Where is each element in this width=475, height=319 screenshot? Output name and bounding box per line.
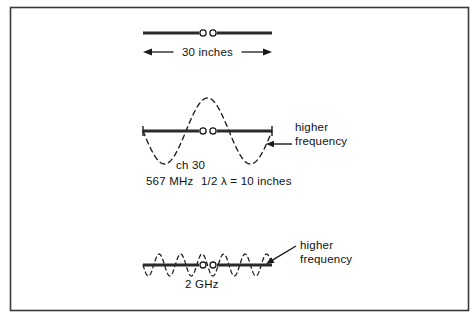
higher-frequency-callout: higher frequency	[266, 121, 347, 147]
feed-point-left-icon	[200, 128, 206, 134]
callout-label-line2: frequency	[295, 135, 347, 147]
dimension-label-30-inches: 30 inches	[182, 46, 233, 58]
antenna-wavelength-figure: 30 inches higher frequency ch 30 567 MHz…	[0, 0, 475, 319]
arrow-left-icon	[143, 49, 152, 56]
diagram-top: 30 inches	[143, 30, 272, 58]
feed-point-left-icon	[200, 30, 206, 36]
feed-point-right-icon	[210, 128, 216, 134]
feed-point-right-icon	[210, 30, 216, 36]
feed-point-right-icon	[210, 262, 216, 268]
callout-arrowhead-icon	[266, 141, 274, 147]
half-wavelength-label: 1/2 λ = 10 inches	[201, 175, 292, 187]
callout-label-line1: higher	[300, 239, 333, 251]
dimension-line-30-inches: 30 inches	[143, 46, 272, 58]
higher-frequency-callout: higher frequency	[266, 239, 352, 265]
frequency-label: 2 GHz	[185, 278, 219, 290]
callout-arrowhead-icon	[266, 257, 275, 264]
feed-point-left-icon	[200, 262, 206, 268]
diagram-middle: higher frequency ch 30 567 MHz 1/2 λ = 1…	[143, 98, 347, 187]
callout-label-line2: frequency	[300, 253, 352, 265]
callout-arrow-line	[272, 246, 296, 260]
callout-label-line1: higher	[295, 121, 328, 133]
frequency-label: 567 MHz	[146, 175, 193, 187]
figure-canvas: 30 inches higher frequency ch 30 567 MHz…	[0, 0, 475, 319]
diagram-bottom: higher frequency 2 GHz	[143, 239, 352, 290]
channel-label: ch 30	[176, 159, 205, 171]
arrow-right-icon	[263, 49, 272, 56]
